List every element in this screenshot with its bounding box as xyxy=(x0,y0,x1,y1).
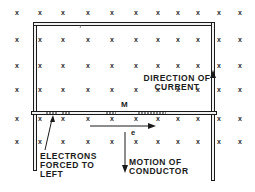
field-x-mark: x xyxy=(236,115,244,122)
field-x-mark: x xyxy=(132,62,140,69)
field-x-mark: x xyxy=(13,115,21,122)
field-x-mark: x xyxy=(36,115,44,122)
conductor-label: M xyxy=(121,100,128,109)
field-x-mark: x xyxy=(174,138,182,145)
field-x-mark: x xyxy=(108,115,116,122)
field-x-mark: x xyxy=(36,9,44,16)
field-x-mark: x xyxy=(215,138,223,145)
field-x-mark: x xyxy=(236,138,244,145)
field-x-mark: x xyxy=(236,86,244,93)
field-x-mark: x xyxy=(84,9,92,16)
field-x-mark: x xyxy=(215,9,223,16)
induction-diagram: xxxxxxxxxxxxxxxxxxxxxxxxxxxxxxxxxxxxxxxx… xyxy=(0,0,255,192)
motion-arrow-icon xyxy=(122,132,128,173)
field-x-mark: x xyxy=(108,86,116,93)
field-x-mark: x xyxy=(132,36,140,43)
field-x-mark: x xyxy=(108,62,116,69)
field-x-mark: x xyxy=(236,9,244,16)
field-x-mark: x xyxy=(154,115,162,122)
field-x-mark: x xyxy=(174,62,182,69)
field-x-mark: x xyxy=(13,9,21,16)
field-x-mark: x xyxy=(59,138,67,145)
field-x-mark: x xyxy=(108,138,116,145)
field-x-mark: x xyxy=(59,36,67,43)
field-x-mark: x xyxy=(84,138,92,145)
field-x-mark: x xyxy=(236,36,244,43)
field-x-mark: x xyxy=(132,115,140,122)
diagram-artwork xyxy=(0,0,255,192)
field-x-mark: x xyxy=(215,86,223,93)
field-x-mark: x xyxy=(154,36,162,43)
field-x-mark: x xyxy=(215,115,223,122)
field-x-mark: x xyxy=(59,62,67,69)
field-x-mark: x xyxy=(13,86,21,93)
field-x-mark: x xyxy=(215,36,223,43)
field-x-mark: x xyxy=(36,62,44,69)
field-x-mark: x xyxy=(194,62,202,69)
field-x-mark: x xyxy=(194,115,202,122)
field-x-mark: x xyxy=(132,9,140,16)
field-x-mark: x xyxy=(13,36,21,43)
field-x-mark: x xyxy=(194,138,202,145)
field-x-mark: x xyxy=(13,138,21,145)
direction-of-current-label: DIRECTION OF CURRENT xyxy=(143,74,211,92)
field-x-mark: x xyxy=(174,115,182,122)
motion-of-conductor-label: MOTION OF CONDUCTOR xyxy=(129,158,189,176)
motion-line2: CONDUCTOR xyxy=(129,167,189,176)
electrons-forced-left-label: ELECTRONS FORCED TO LEFT xyxy=(40,152,97,179)
field-x-mark: x xyxy=(84,36,92,43)
electron-symbol-label: e xyxy=(131,128,136,137)
field-x-mark: x xyxy=(215,62,223,69)
field-x-mark: x xyxy=(174,9,182,16)
field-x-mark: x xyxy=(84,86,92,93)
field-x-mark: x xyxy=(59,9,67,16)
field-x-mark: x xyxy=(132,86,140,93)
field-x-mark: x xyxy=(36,86,44,93)
field-x-mark: x xyxy=(13,62,21,69)
direction-of-current-line2: CURRENT xyxy=(143,83,211,92)
field-x-mark: x xyxy=(154,62,162,69)
electrons-leader-icon xyxy=(45,115,55,150)
field-x-mark: x xyxy=(36,138,44,145)
field-x-mark: x xyxy=(108,36,116,43)
field-x-mark: x xyxy=(154,138,162,145)
electron-arrow-icon xyxy=(90,123,156,129)
electrons-line3: LEFT xyxy=(40,170,97,179)
field-x-mark: x xyxy=(108,9,116,16)
field-x-mark: x xyxy=(84,62,92,69)
field-x-mark: x xyxy=(174,36,182,43)
field-x-mark: x xyxy=(36,36,44,43)
field-x-mark: x xyxy=(59,86,67,93)
field-x-mark: x xyxy=(132,138,140,145)
field-x-mark: x xyxy=(194,36,202,43)
field-x-mark: x xyxy=(154,9,162,16)
field-x-mark: x xyxy=(236,62,244,69)
field-x-mark: x xyxy=(84,115,92,122)
field-x-mark: x xyxy=(194,9,202,16)
field-x-mark: x xyxy=(59,115,67,122)
